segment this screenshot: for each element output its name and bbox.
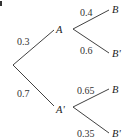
node-label-B-prime-under-A: B' bbox=[112, 48, 121, 59]
node-label-A-prime: A' bbox=[55, 104, 65, 115]
node-label-B-under-A-prime: B bbox=[112, 84, 119, 95]
node-label-B-prime-under-A-prime: B' bbox=[112, 128, 121, 139]
probability-tree-diagram: 0.3 0.7 0.4 0.6 0.65 0.35 A A' B B' B B' bbox=[0, 0, 127, 140]
prob-A: 0.3 bbox=[17, 36, 30, 47]
prob-B-prime-given-A: 0.6 bbox=[80, 45, 93, 56]
prob-A-prime: 0.7 bbox=[17, 88, 30, 99]
node-label-A: A bbox=[55, 24, 63, 35]
prob-B-prime-given-A-prime: 0.35 bbox=[77, 128, 95, 139]
node-label-B-under-A: B bbox=[112, 4, 119, 15]
prob-B-given-A: 0.4 bbox=[80, 7, 93, 18]
prob-B-given-A-prime: 0.65 bbox=[77, 85, 95, 96]
branch-root-to-A-prime bbox=[13, 65, 54, 106]
